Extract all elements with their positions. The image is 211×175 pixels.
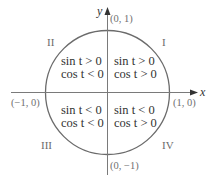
- quadrant-IV-label: IV: [162, 139, 174, 151]
- unit-circle-diagram: x y (0, 1) (1, 0) (0, −1) (−1, 0) I II I…: [0, 0, 211, 175]
- quadrant-I-cos: cos t > 0: [114, 67, 157, 81]
- quadrant-II-label: II: [47, 36, 55, 48]
- quadrant-II-sin: sin t > 0: [61, 54, 102, 68]
- y-axis-label: y: [96, 4, 103, 18]
- quadrant-III-cos: cos t < 0: [61, 116, 104, 130]
- quadrant-I-sin: sin t > 0: [114, 54, 155, 68]
- point-top-label: (0, 1): [110, 13, 133, 25]
- point-left-label: (−1, 0): [11, 97, 40, 109]
- point-right-label: (1, 0): [173, 97, 196, 109]
- quadrant-I-label: I: [162, 36, 166, 48]
- quadrant-II-cos: cos t < 0: [61, 67, 104, 81]
- quadrant-IV-cos: cos t > 0: [114, 116, 157, 130]
- x-axis-label: x: [199, 85, 206, 99]
- quadrant-IV-sin: sin t < 0: [114, 103, 155, 117]
- point-bottom-label: (0, −1): [110, 160, 139, 172]
- quadrant-III-sin: sin t < 0: [61, 103, 102, 117]
- x-axis-arrow-icon: [190, 90, 198, 96]
- quadrant-III-label: III: [41, 139, 52, 151]
